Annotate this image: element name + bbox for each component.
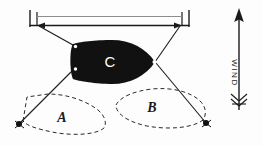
net-node-apex [152,60,156,64]
ghost-b-label: B [146,100,156,115]
diagram-canvas: C A B [0,0,263,146]
wind-label: WIND [230,59,239,87]
net-node-top-left [74,45,77,48]
net-label-c: C [105,53,116,70]
diagram-svg: C A B [0,0,263,146]
ghost-a-label: A [56,110,66,125]
net-node-bottom-left [74,67,77,70]
